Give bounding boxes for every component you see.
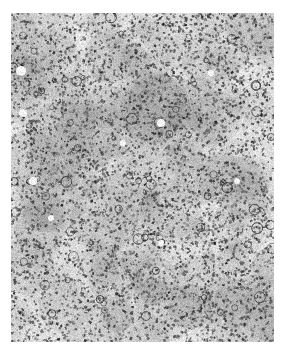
micrograph-image — [11, 13, 274, 342]
micrograph-figure — [11, 13, 274, 342]
